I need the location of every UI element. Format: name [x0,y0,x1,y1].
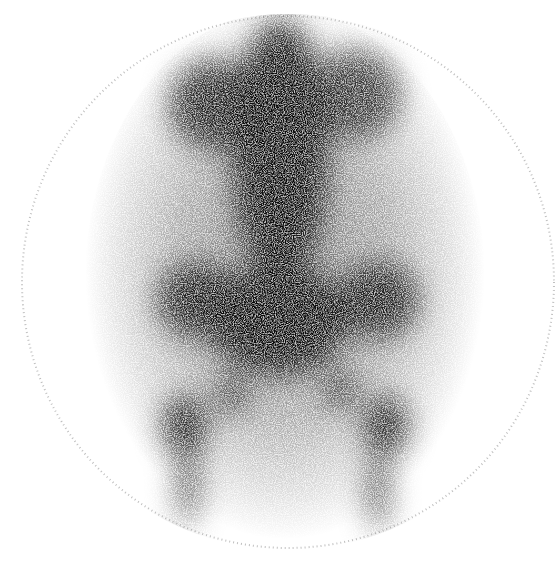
bone-scan-image [0,0,558,561]
